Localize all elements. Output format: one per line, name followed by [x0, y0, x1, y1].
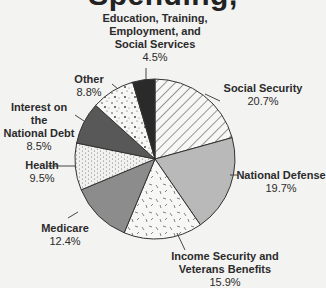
label-national-defense: National Defense 19.7%	[236, 169, 326, 195]
label-income-security: Income Security and Veterans Benefits 15…	[170, 250, 280, 288]
label-other: Other 8.8%	[70, 73, 108, 99]
label-education: Education, Training, Employment, and Soc…	[100, 12, 210, 64]
label-health: Health 9.5%	[22, 159, 62, 185]
label-social-security: Social Security 20.7%	[218, 82, 308, 108]
label-medicare: Medicare 12.4%	[40, 222, 90, 248]
label-interest: Interest on the National Debt 8.5%	[3, 101, 75, 153]
